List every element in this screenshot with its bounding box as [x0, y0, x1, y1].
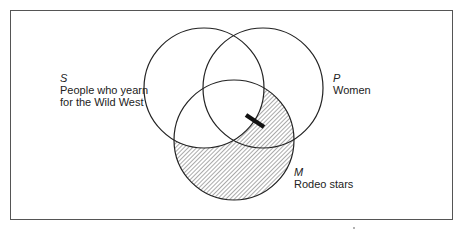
label-p-line1: Women	[333, 84, 371, 96]
label-m-line1: Rodeo stars	[294, 178, 353, 190]
label-s-line2: for the Wild West	[60, 96, 148, 108]
label-p: P Women	[333, 72, 371, 96]
venn-diagram	[0, 0, 464, 232]
label-m: M Rodeo stars	[294, 166, 353, 190]
label-m-letter: M	[294, 166, 353, 178]
label-s-line1: People who yearn	[60, 84, 148, 96]
label-p-letter: P	[333, 72, 371, 84]
label-s: S People who yearn for the Wild West	[60, 72, 148, 108]
speck	[353, 227, 355, 229]
label-s-letter: S	[60, 72, 148, 84]
